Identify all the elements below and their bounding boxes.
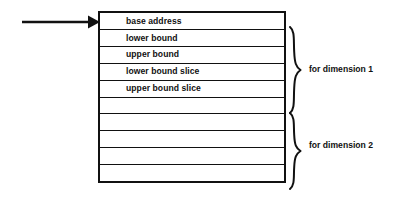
table-row [100, 98, 284, 115]
table-row: lower bound slice [100, 64, 284, 81]
array-descriptor-diagram: base address lower bound upper bound low… [0, 0, 410, 197]
right-curly-brace-icon [288, 112, 302, 190]
table-row: upper bound slice [100, 81, 284, 98]
dimension-2-brace [288, 112, 302, 190]
table-row [100, 131, 284, 148]
base-address-pointer-arrow [20, 13, 102, 31]
table-row-label: lower bound slice [126, 67, 199, 76]
table-row: upper bound [100, 47, 284, 64]
right-curly-brace-icon [288, 26, 302, 114]
table-row [100, 114, 284, 131]
arrow-right-icon [20, 13, 102, 31]
table-row-label: lower bound [126, 34, 178, 43]
table-row: lower bound [100, 30, 284, 47]
table-row [100, 148, 284, 165]
table-row-label: upper bound slice [126, 84, 201, 93]
dimension-1-label: for dimension 1 [309, 65, 373, 74]
descriptor-table: base address lower bound upper bound low… [98, 11, 286, 183]
table-row: base address [100, 13, 284, 30]
table-row [100, 165, 284, 181]
table-row-label: upper bound [126, 50, 179, 59]
table-row-label: base address [126, 17, 182, 26]
dimension-1-brace [288, 26, 302, 114]
dimension-2-label: for dimension 2 [309, 141, 373, 150]
